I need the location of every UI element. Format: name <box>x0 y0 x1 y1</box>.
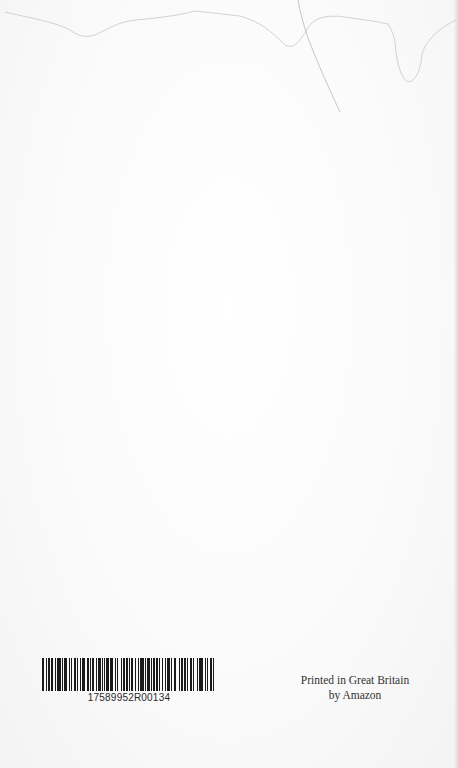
imprint-line-2: by Amazon <box>280 688 430 703</box>
paper-tear-marks <box>0 0 458 120</box>
barcode <box>42 658 216 691</box>
barcode-number: 17589952R00134 <box>42 692 216 703</box>
barcode-block: 17589952R00134 <box>42 658 216 703</box>
imprint-line-1: Printed in Great Britain <box>280 673 430 688</box>
printer-imprint: Printed in Great Britain by Amazon <box>280 673 430 703</box>
